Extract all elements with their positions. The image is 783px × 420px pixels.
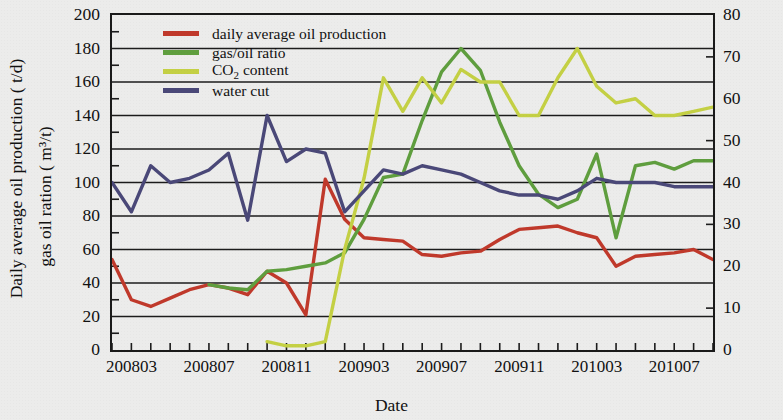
series-line — [112, 116, 713, 221]
legend-color-swatch — [163, 88, 199, 93]
y-left-tick-label: 180 — [48, 40, 100, 58]
legend-item: CO2 content — [163, 62, 413, 81]
chart-figure: Daily average oil production ( t/d) gas … — [0, 0, 783, 420]
y-right-tick-label: 30 — [723, 215, 757, 233]
legend-item: water cut — [163, 81, 413, 100]
y-left-tick-label: 200 — [48, 6, 100, 24]
y-left-tick-label: 20 — [48, 308, 100, 326]
y-left-tick-label: 60 — [48, 241, 100, 259]
series-line — [112, 179, 713, 315]
y-left-tick-label: 80 — [48, 207, 100, 225]
y-right-tick-label: 0 — [723, 341, 757, 359]
y-right-tick-label: 80 — [723, 6, 757, 24]
y-left-tick-label: 120 — [48, 140, 100, 158]
legend-label: CO2 content — [212, 61, 289, 81]
y-right-tick-label: 50 — [723, 132, 757, 150]
y-right-tick-label: 10 — [723, 299, 757, 317]
x-tick-label: 200811 — [261, 358, 311, 375]
x-axis-title: Date — [0, 395, 783, 416]
x-tick-label: 200903 — [339, 358, 390, 375]
x-tick-label: 201007 — [649, 358, 700, 375]
y-right-tick-label: 60 — [723, 90, 757, 108]
legend-item: gas/oil ratio — [163, 43, 413, 62]
y-left-tick-label: 100 — [48, 174, 100, 192]
y-axis-left-title-line1: Daily average oil production ( t/d) — [6, 58, 27, 298]
x-tick-label: 201003 — [571, 358, 622, 375]
y-right-tick-label: 20 — [723, 257, 757, 275]
y-right-tick-label: 40 — [723, 174, 757, 192]
legend-color-swatch — [163, 31, 199, 36]
y-left-tick-label: 0 — [48, 341, 100, 359]
legend-label: gas/oil ratio — [212, 44, 286, 62]
x-tick-label: 200807 — [183, 358, 234, 375]
legend-item: daily average oil production — [163, 24, 413, 43]
x-tick-label: 200911 — [494, 358, 544, 375]
legend-label: daily average oil production — [212, 25, 386, 43]
y-left-tick-label: 140 — [48, 107, 100, 125]
legend-color-swatch — [163, 69, 199, 74]
legend-label: water cut — [212, 82, 269, 100]
x-tick-label: 200907 — [416, 358, 467, 375]
y-left-tick-label: 160 — [48, 73, 100, 91]
y-right-tick-label: 70 — [723, 48, 757, 66]
chart-legend: daily average oil productiongas/oil rati… — [163, 24, 413, 100]
x-tick-label: 200803 — [106, 358, 157, 375]
y-left-tick-label: 40 — [48, 274, 100, 292]
legend-color-swatch — [163, 50, 199, 55]
